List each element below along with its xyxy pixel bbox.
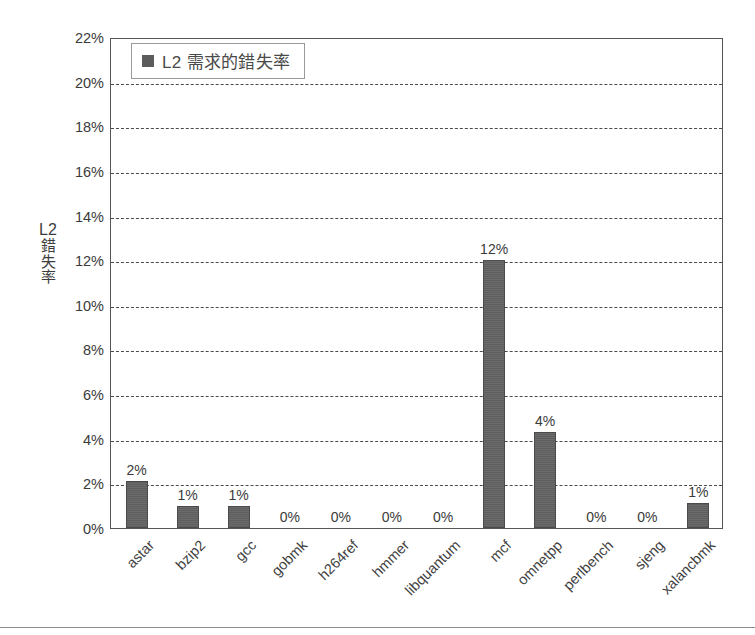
bar-value-label: 2% [126,462,146,478]
bar-value-label: 0% [382,509,402,525]
page-divider [0,627,755,628]
y-axis-tick-label: 22% [56,30,104,46]
x-axis-tick-labels: astarbzip2gccgobmkh264refhmmerlibquantum… [110,529,723,629]
plot-area: 2%1%1%0%0%0%0%12%4%0%0%1% L2 需求的錯失率 [110,38,723,529]
x-axis-tick-label: astar [123,537,157,571]
bar-value-label: 12% [480,241,508,257]
x-axis-tick-label: sjeng [632,537,668,573]
chart-figure: L2 錯 失 率 22%20%18%16%14%12%10%8%6%4%2%0%… [0,0,755,635]
bar-group: 0% [571,39,622,528]
bar-value-label: 0% [280,509,300,525]
legend-entry-label: L2 需求的錯失率 [162,48,290,73]
bar[interactable] [126,481,148,528]
y-axis-tick-label: 20% [56,75,104,91]
x-axis-tick-label: xalancbmk [658,537,718,597]
y-axis-tick-labels: 22%20%18%16%14%12%10%8%6%4%2%0% [56,0,104,635]
bar-group: 0% [264,39,315,528]
bar-group: 0% [418,39,469,528]
bar-value-label: 4% [535,413,555,429]
x-axis-tick-label: gcc [232,537,259,564]
x-axis-tick-label: gobmk [268,537,310,579]
bar-group: 4% [520,39,571,528]
bar-group: 0% [366,39,417,528]
bar-value-label: 0% [586,509,606,525]
bar-value-label: 0% [331,509,351,525]
bar-group: 1% [673,39,724,528]
y-axis-tick-label: 18% [56,119,104,135]
y-axis-tick-label: 8% [56,342,104,358]
legend-swatch-icon [142,55,154,67]
bar-group: 1% [213,39,264,528]
bar-value-label: 0% [637,509,657,525]
x-axis-tick-label: h264ref [315,537,361,583]
bar[interactable] [483,260,505,528]
y-axis-tick-label: 10% [56,298,104,314]
y-axis-tick-label: 12% [56,253,104,269]
bar[interactable] [228,506,250,528]
x-axis-tick-label: bzip2 [172,537,208,573]
y-axis-tick-label: 2% [56,476,104,492]
bar[interactable] [534,432,556,528]
y-axis-tick-label: 0% [56,521,104,537]
x-axis-tick-label: hmmer [369,537,412,580]
chart-legend: L2 需求的錯失率 [131,43,305,79]
bar-group: 1% [162,39,213,528]
y-axis-tick-label: 14% [56,209,104,225]
y-axis-title-latin: L2 [39,221,57,238]
x-axis-tick-label: perlbench [560,537,616,593]
bar-group: 12% [469,39,520,528]
bar-value-label: 1% [688,484,708,500]
bar-value-label: 1% [229,487,249,503]
bar-group: 0% [622,39,673,528]
y-axis-tick-label: 16% [56,164,104,180]
bar[interactable] [687,503,709,528]
y-axis-tick-label: 6% [56,387,104,403]
bar-value-label: 0% [433,509,453,525]
x-axis-tick-label: mcf [487,537,515,565]
bar-group: 0% [315,39,366,528]
y-axis-tick-label: 4% [56,432,104,448]
x-axis-tick-label: omnetpp [514,537,565,588]
bar[interactable] [177,506,199,528]
bar-value-label: 1% [177,487,197,503]
bar-group: 2% [111,39,162,528]
